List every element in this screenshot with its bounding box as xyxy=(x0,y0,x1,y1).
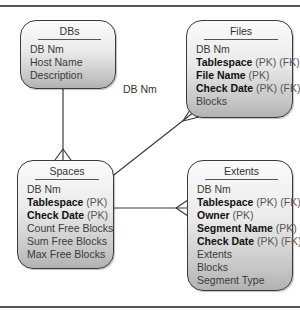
attribute: Host Name xyxy=(30,56,109,69)
attribute: Blocks xyxy=(197,261,286,274)
key-attribute: Tablespace (PK) xyxy=(27,196,107,209)
key-attribute: Tablespace (PK) (FK) xyxy=(197,196,286,209)
key-attribute: Check Date (PK) (FK) xyxy=(197,235,286,248)
key-attribute: Tablespace (PK) (FK) xyxy=(196,56,286,69)
entity-title: DBs xyxy=(38,25,101,40)
key-attribute: Check Date (PK) (FK) xyxy=(196,82,286,95)
attribute: Sum Free Blocks xyxy=(27,235,107,248)
attribute: Max Free Blocks xyxy=(27,248,107,261)
attribute: DB Nm xyxy=(27,183,107,196)
relationship-label: DB Nm xyxy=(123,83,157,95)
entity-dbs[interactable]: DBs DB Nm Host Name Description xyxy=(20,20,116,89)
attribute: Blocks xyxy=(196,95,286,108)
entity-title: Extents xyxy=(205,165,278,180)
entity-extents[interactable]: Extents DB Nm Tablespace (PK) (FK) Owner… xyxy=(187,160,293,291)
attribute: Segment Type xyxy=(197,274,286,287)
key-attribute: Owner (PK) xyxy=(197,209,286,222)
attribute: DB Nm xyxy=(30,43,109,56)
key-attribute: Segment Name (PK) xyxy=(197,222,286,235)
key-attribute: File Name (PK) xyxy=(196,69,286,82)
attribute: Description xyxy=(30,69,109,82)
relationship-spaces-extents xyxy=(114,200,188,216)
entity-title: Files xyxy=(204,25,278,40)
key-attribute: Check Date (PK) xyxy=(27,209,107,222)
relationship-dbs-spaces xyxy=(55,89,71,160)
attribute: DB Nm xyxy=(196,43,286,56)
attribute: Extents xyxy=(197,248,286,261)
relationship-spaces-files xyxy=(110,110,199,178)
entity-title: Spaces xyxy=(35,165,99,180)
entity-files[interactable]: Files DB Nm Tablespace (PK) (FK) File Na… xyxy=(186,20,293,118)
attribute: DB Nm xyxy=(197,183,286,196)
entity-spaces[interactable]: Spaces DB Nm Tablespace (PK) Check Date … xyxy=(17,160,114,269)
attribute: Count Free Blocks xyxy=(27,222,107,235)
